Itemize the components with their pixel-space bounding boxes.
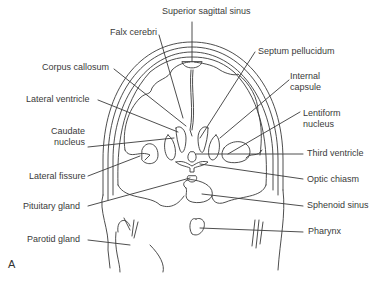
label-internal-capsule-line2: capsule (290, 82, 321, 93)
label-sphenoid-sinus: Sphenoid sinus (307, 200, 369, 211)
label-pharynx: Pharynx (308, 226, 341, 237)
label-internal-capsule-line1: Internal (290, 71, 320, 82)
label-pituitary-gland: Pituitary gland (23, 201, 80, 212)
anatomy-diagram: Superior sagittal sinus Falx cerebri Cor… (0, 0, 385, 288)
label-lentiform-nucleus-line1: Lentiform (303, 108, 341, 119)
label-caudate-nucleus-line1: Caudate (45, 126, 85, 137)
label-superior-sagittal-sinus: Superior sagittal sinus (162, 6, 251, 17)
label-parotid-gland: Parotid gland (27, 234, 80, 245)
label-optic-chiasm: Optic chiasm (307, 174, 359, 185)
label-lateral-ventricle: Lateral ventricle (26, 94, 90, 105)
label-third-ventricle: Third ventricle (307, 148, 364, 159)
label-lateral-fissure: Lateral fissure (29, 171, 86, 182)
label-caudate-nucleus-line2: nucleus (45, 137, 85, 148)
figure-letter: A (8, 258, 15, 270)
label-falx-cerebri: Falx cerebri (110, 27, 157, 38)
label-lentiform-nucleus-line2: nucleus (303, 119, 334, 130)
label-septum-pellucidum: Septum pellucidum (258, 46, 335, 57)
label-corpus-callosum: Corpus callosum (42, 62, 109, 73)
